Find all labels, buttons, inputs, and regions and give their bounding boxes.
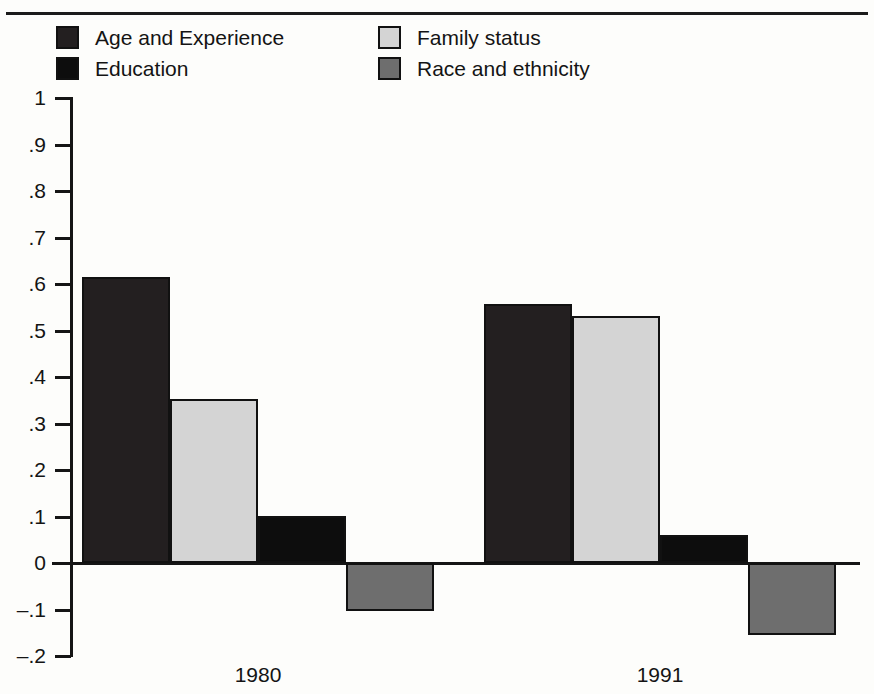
y-axis-tick <box>52 562 71 565</box>
bar-family-status-1991 <box>572 316 660 563</box>
y-axis-tick-label: .9 <box>28 134 46 155</box>
y-axis-tick <box>55 655 71 658</box>
y-axis-tick-label: .8 <box>28 180 46 201</box>
y-axis-tick-label: 1 <box>34 87 46 108</box>
y-axis-tick-label: –.2 <box>17 645 46 666</box>
bar-family-status-1980 <box>170 399 258 563</box>
bar-race-and-ethnicity-1980 <box>346 563 434 611</box>
y-axis-tick <box>55 190 71 193</box>
y-axis-tick-label: .1 <box>28 506 46 527</box>
y-axis-tick-label: .3 <box>28 413 46 434</box>
y-axis-tick-label: .6 <box>28 273 46 294</box>
y-axis-tick <box>55 144 71 147</box>
y-axis-tick-label: .5 <box>28 320 46 341</box>
y-axis-tick <box>55 516 71 519</box>
x-axis-label-1991: 1991 <box>600 664 720 685</box>
bar-race-and-ethnicity-1991 <box>748 563 836 635</box>
y-axis-tick <box>55 330 71 333</box>
y-axis-tick <box>55 423 71 426</box>
y-axis-tick <box>55 283 71 286</box>
bar-education-1980 <box>258 516 346 563</box>
plot-area: 1.9.8.7.6.5.4.3.2.10–.1–.2 19801991 <box>0 0 874 694</box>
y-axis-tick <box>55 237 71 240</box>
y-axis-tick-label: .7 <box>28 227 46 248</box>
y-axis-tick-label: .2 <box>28 459 46 480</box>
bar-age-and-experience-1991 <box>484 304 572 563</box>
bar-age-and-experience-1980 <box>82 277 170 563</box>
y-axis-tick <box>55 376 71 379</box>
y-axis-tick <box>55 97 71 100</box>
y-axis-tick-label: 0 <box>34 552 46 573</box>
bar-education-1991 <box>660 535 748 563</box>
y-axis-tick-label: –.1 <box>17 599 46 620</box>
y-axis-tick <box>55 609 71 612</box>
y-axis-tick <box>55 469 71 472</box>
y-axis-tick-label: .4 <box>28 366 46 387</box>
x-axis-label-1980: 1980 <box>198 664 318 685</box>
bar-chart-figure: Age and Experience Education Family stat… <box>0 0 874 694</box>
